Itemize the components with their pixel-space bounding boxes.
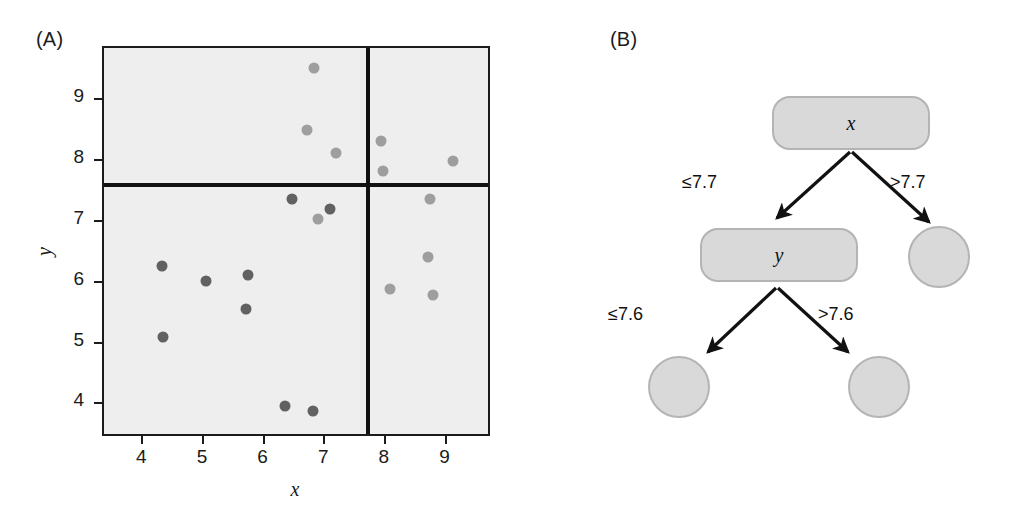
scatter-point bbox=[423, 252, 434, 263]
scatter-point bbox=[331, 147, 342, 158]
scatter-plot-frame bbox=[102, 46, 490, 436]
x-axis-tick bbox=[445, 436, 447, 444]
scatter-plot-area bbox=[104, 48, 488, 434]
scatter-point bbox=[385, 283, 396, 294]
x-axis-tick-label: 4 bbox=[126, 446, 156, 468]
scatter-point bbox=[376, 135, 387, 146]
x-axis-tick bbox=[202, 436, 204, 444]
y-axis-title: y bbox=[33, 247, 56, 256]
edge-label-x-gt: >7.7 bbox=[890, 172, 926, 193]
x-axis-tick-label: 6 bbox=[248, 446, 278, 468]
scatter-point bbox=[157, 332, 168, 343]
scatter-point bbox=[313, 213, 324, 224]
x-axis-tick-label: 8 bbox=[369, 446, 399, 468]
y-axis-tick bbox=[94, 281, 102, 283]
y-axis-tick-labels: 456789 bbox=[24, 0, 84, 513]
scatter-point bbox=[241, 303, 252, 314]
scatter-point bbox=[242, 270, 253, 281]
panel-b-decision-tree: (B) x y ≤7.7 >7.7 ≤7.6 >7.6 bbox=[560, 0, 1015, 513]
split-line-horizontal bbox=[104, 183, 488, 187]
edge-label-y-le: ≤7.6 bbox=[608, 304, 643, 325]
y-axis-tick bbox=[94, 220, 102, 222]
figure-root: (A) 456789 456789 x y (B) bbox=[0, 0, 1015, 513]
tree-node-y[interactable]: y bbox=[700, 228, 858, 282]
x-axis-tick bbox=[263, 436, 265, 444]
x-axis-tick bbox=[323, 436, 325, 444]
y-axis-tick bbox=[94, 98, 102, 100]
scatter-point bbox=[200, 275, 211, 286]
tree-node-root-label: x bbox=[847, 112, 856, 135]
scatter-point bbox=[156, 260, 167, 271]
y-axis-tick-label: 6 bbox=[54, 268, 84, 290]
y-axis-tick-label: 9 bbox=[54, 85, 84, 107]
edge-y-to-leaf-left bbox=[708, 288, 776, 352]
panel-a-scatter: (A) 456789 456789 x y bbox=[0, 0, 540, 513]
tree-leaf-bottom-right[interactable] bbox=[848, 356, 910, 418]
split-line-vertical bbox=[366, 48, 370, 434]
scatter-point bbox=[325, 204, 336, 215]
tree-leaf-right-top[interactable] bbox=[908, 226, 970, 288]
y-axis-tick-label: 8 bbox=[54, 146, 84, 168]
scatter-point bbox=[428, 289, 439, 300]
edge-root-to-y bbox=[777, 152, 850, 218]
scatter-point bbox=[377, 166, 388, 177]
scatter-point bbox=[309, 63, 320, 74]
y-axis-tick-label: 7 bbox=[54, 207, 84, 229]
tree-node-root[interactable]: x bbox=[772, 96, 930, 150]
tree-node-y-label: y bbox=[775, 244, 784, 267]
y-axis-tick-label: 5 bbox=[54, 329, 84, 351]
y-axis-tick bbox=[94, 159, 102, 161]
scatter-point bbox=[308, 405, 319, 416]
x-axis-tick-label: 7 bbox=[308, 446, 338, 468]
x-axis-tick-label: 9 bbox=[430, 446, 460, 468]
y-axis-tick-label: 4 bbox=[54, 389, 84, 411]
x-axis-tick bbox=[141, 436, 143, 444]
y-axis-tick bbox=[94, 342, 102, 344]
y-axis-tick bbox=[94, 402, 102, 404]
scatter-point bbox=[424, 193, 435, 204]
tree-leaf-bottom-left[interactable] bbox=[648, 356, 710, 418]
scatter-point bbox=[447, 155, 458, 166]
x-axis-title: x bbox=[0, 478, 590, 501]
scatter-point bbox=[279, 401, 290, 412]
edge-label-y-gt: >7.6 bbox=[818, 304, 854, 325]
edge-label-x-le: ≤7.7 bbox=[682, 172, 717, 193]
scatter-point bbox=[286, 194, 297, 205]
scatter-point bbox=[302, 125, 313, 136]
x-axis-tick bbox=[384, 436, 386, 444]
x-axis-tick-label: 5 bbox=[187, 446, 217, 468]
